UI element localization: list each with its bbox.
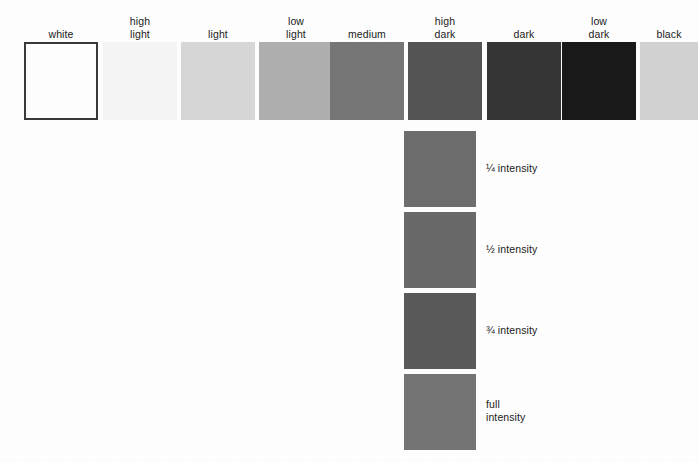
- scale-label-low-dark: low dark: [562, 15, 636, 40]
- scale-label-black: black: [640, 28, 698, 41]
- scale-swatch-high-light: [103, 42, 177, 120]
- scale-label-light: light: [181, 28, 255, 41]
- intensity-swatch-three-quarter: [404, 293, 476, 369]
- scale-swatch-black: [640, 42, 698, 120]
- intensity-label-half: ½ intensity: [486, 243, 606, 256]
- intensity-label-three-quarter: ¾ intensity: [486, 324, 606, 337]
- scale-swatch-light: [181, 42, 255, 120]
- scale-swatch-medium: [330, 42, 404, 120]
- intensity-swatch-half: [404, 212, 476, 288]
- scale-swatch-high-dark: [408, 42, 482, 120]
- scale-label-dark: dark: [487, 28, 561, 41]
- intensity-swatch-quarter: [404, 131, 476, 207]
- scale-swatch-low-dark: [562, 42, 636, 120]
- intensity-swatch-full: [404, 374, 476, 450]
- scale-swatch-dark: [487, 42, 561, 120]
- intensity-label-quarter: ¼ intensity: [486, 162, 606, 175]
- intensity-label-full: full intensity: [486, 398, 606, 423]
- scale-swatch-low-light: [259, 42, 333, 120]
- scale-label-white: white: [24, 28, 98, 41]
- grayscale-value-chart: white high light light low light medium …: [0, 0, 698, 462]
- scale-swatch-white: [24, 42, 98, 120]
- scale-label-low-light: low light: [259, 15, 333, 40]
- scale-label-medium: medium: [330, 28, 404, 41]
- scale-label-high-dark: high dark: [408, 15, 482, 40]
- scale-label-high-light: high light: [103, 15, 177, 40]
